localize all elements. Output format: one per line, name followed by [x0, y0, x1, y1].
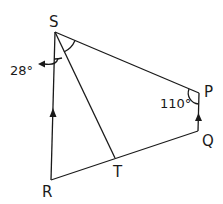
pointer-arrowhead: [38, 61, 45, 68]
segment-QR: [51, 131, 198, 180]
angle-label-110: 110°: [160, 96, 191, 111]
vertex-label-Q: Q: [202, 132, 214, 150]
parallel-arrow-RS: [50, 108, 57, 117]
angle-label-28: 28°: [10, 63, 33, 78]
vertex-label-R: R: [42, 183, 52, 201]
segment-RS: [51, 32, 55, 180]
segment-PQ: [198, 93, 199, 131]
segment-SP: [55, 32, 199, 93]
vertex-label-S: S: [49, 13, 59, 31]
segment-ST: [55, 32, 115, 158]
geometry-figure: S P Q R T 28° 110°: [0, 0, 223, 204]
vertex-label-P: P: [204, 83, 213, 101]
angle-arc-TSP: [64, 41, 75, 53]
parallel-arrow-QP: [195, 113, 202, 121]
vertex-label-T: T: [112, 163, 123, 181]
